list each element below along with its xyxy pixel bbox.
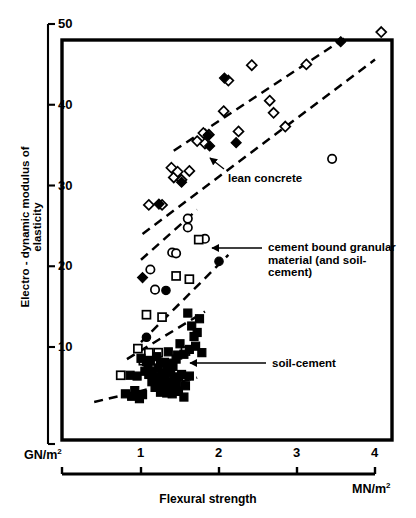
data-point-square-filled xyxy=(176,340,184,348)
data-point-diamond-open xyxy=(265,96,275,106)
x-tick-label: 2 xyxy=(215,445,222,460)
envelope-line xyxy=(143,60,375,234)
data-point-diamond-open xyxy=(184,166,194,176)
data-point-diamond-filled xyxy=(138,273,148,283)
data-point-square-open xyxy=(195,236,203,244)
x-tick-label: 1 xyxy=(137,445,144,460)
x-axis-title: Flexural strength xyxy=(0,492,416,506)
data-point-square-filled xyxy=(174,373,182,381)
y-axis-title: Electro - dynamic modulus of elasticity xyxy=(19,132,43,322)
x-axis xyxy=(62,467,375,474)
data-point-square-filled xyxy=(185,372,193,380)
annotation-label-cement-bound-granular: cement bound granular material (and soil… xyxy=(268,241,396,279)
data-point-circle-filled xyxy=(142,333,150,341)
data-point-square-filled xyxy=(174,351,182,359)
data-point-circle-open xyxy=(328,155,336,163)
y-tick-label: 40 xyxy=(58,97,72,112)
data-point-square-filled xyxy=(157,359,165,367)
data-point-diamond-open xyxy=(144,200,154,210)
y-tick-label: 30 xyxy=(58,178,72,193)
data-point-square-filled xyxy=(196,315,204,323)
data-point-square-filled xyxy=(181,382,189,390)
data-point-square-open xyxy=(142,311,150,319)
data-point-diamond-filled xyxy=(231,138,241,148)
data-point-square-open xyxy=(145,349,153,357)
y-tick-label: 50 xyxy=(58,16,72,31)
plot-frame xyxy=(62,40,392,440)
data-point-circle-open xyxy=(151,285,159,293)
data-point-diamond-open xyxy=(234,126,244,136)
data-point-circle-open xyxy=(184,223,192,231)
annotation-label-lean-concrete: lean concrete xyxy=(228,172,302,185)
y-axis xyxy=(48,24,55,444)
data-point-square-open xyxy=(158,313,166,321)
data-point-circle-open xyxy=(172,249,180,257)
data-point-diamond-filled xyxy=(336,37,346,47)
data-point-diamond-open xyxy=(269,108,279,118)
data-point-square-filled xyxy=(164,348,172,356)
annotation-label-soil-cement: soil-cement xyxy=(272,357,336,370)
data-point-diamond-open xyxy=(247,60,257,70)
plot-border xyxy=(62,40,392,440)
data-point-circle-open xyxy=(184,214,192,222)
data-point-circle-filled xyxy=(162,286,170,294)
data-point-square-filled xyxy=(180,393,188,401)
data-point-square-open xyxy=(134,345,142,353)
y-tick-label: 20 xyxy=(58,258,72,273)
data-points xyxy=(117,27,387,403)
data-point-square-filled xyxy=(139,391,147,399)
data-point-square-filled xyxy=(198,349,206,357)
data-point-circle-open xyxy=(146,265,154,273)
y-tick-label: 10 xyxy=(58,339,72,354)
x-tick-label: 3 xyxy=(293,445,300,460)
annotation-leader xyxy=(210,158,224,169)
data-point-square-filled xyxy=(184,309,192,317)
y-axis-unit-label: GN/m2 xyxy=(24,447,62,462)
x-tick-label: 4 xyxy=(371,445,378,460)
data-point-square-open xyxy=(172,272,180,280)
data-point-square-open xyxy=(185,275,193,283)
data-point-square-filled xyxy=(168,359,176,367)
data-point-circle-filled xyxy=(215,257,223,265)
data-point-square-open xyxy=(117,371,125,379)
data-point-diamond-open xyxy=(301,59,311,69)
data-point-diamond-open xyxy=(376,27,386,37)
data-point-square-filled xyxy=(193,328,201,336)
chart-canvas: Electro - dynamic modulus of elasticity … xyxy=(0,0,416,518)
data-point-square-filled xyxy=(131,387,139,395)
data-point-square-filled xyxy=(133,372,141,380)
